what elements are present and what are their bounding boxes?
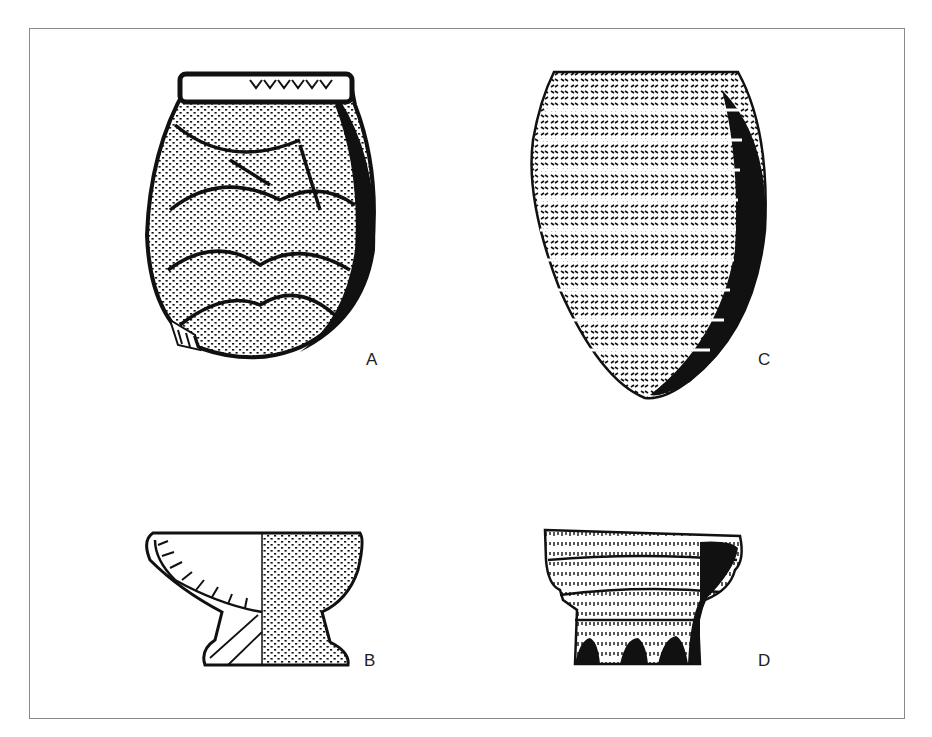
panel-label-b: B xyxy=(364,651,375,671)
panel-label-d: D xyxy=(758,651,770,671)
pottery-illustrations xyxy=(0,0,932,737)
panel-label-c: C xyxy=(758,350,770,370)
vessel-a xyxy=(147,74,375,357)
vessel-b xyxy=(147,533,362,665)
vessel-d xyxy=(545,530,742,664)
panel-label-a: A xyxy=(366,350,377,370)
vessel-c xyxy=(532,72,766,398)
